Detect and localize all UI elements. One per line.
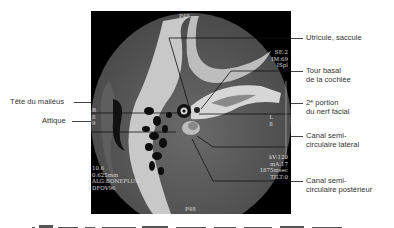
leader-line [72,121,91,122]
ct-orientation-bottom: P48 [185,206,196,213]
label-posterior-canal: Canal semi- circulaire postérieur [306,176,372,194]
label-line: Tour basal [306,66,351,75]
label-line: circulaire postérieur [306,185,372,194]
ct-acquisition-info: 10.6 0.625mm ALG:BONEPLUS DFOV96 [92,165,139,191]
figure-caption-cutoff [30,222,370,228]
leader-line [291,136,303,137]
label-line: Utricule, saccule [306,33,362,42]
caption-glyph-tops [30,222,370,228]
label-cochlea-basal-turn: Tour basal de la cochlée [306,66,351,84]
ct-orientation-top: P48 [179,13,190,20]
label-line: Canal semi- [306,176,372,185]
ct-figure: P48 SE:2 IM:69 ISpl R 8 9 L 8 10.6 0.625… [0,0,394,228]
label-line: Canal semi- [306,131,359,140]
leader-line [291,38,303,39]
label-attic: Attique [42,116,66,125]
leader-line [74,102,91,103]
label-line: 2ᵉ portion [306,98,349,107]
label-lateral-canal: Canal semi- circulaire latéral [306,131,359,149]
label-line: du nerf facial [306,107,349,116]
ct-technique-info: kV:120 mA:17 1875msec TILT:0 [260,154,288,180]
ct-right-marker: L 8 [269,114,273,127]
ct-scan-image: P48 SE:2 IM:69 ISpl R 8 9 L 8 10.6 0.625… [91,11,291,214]
leader-line [291,181,303,182]
label-facial-nerve: 2ᵉ portion du nerf facial [306,98,349,116]
label-utricle-saccule: Utricule, saccule [306,33,362,42]
label-malleus-head: Tête du malléus [10,97,64,106]
leader-line [291,71,303,72]
label-line: de la cochlée [306,75,351,84]
label-line: circulaire latéral [306,140,359,149]
leader-line [291,103,303,104]
ct-series-info: SE:2 IM:69 ISpl [271,49,288,69]
ct-left-marker: R 8 9 [92,107,96,127]
